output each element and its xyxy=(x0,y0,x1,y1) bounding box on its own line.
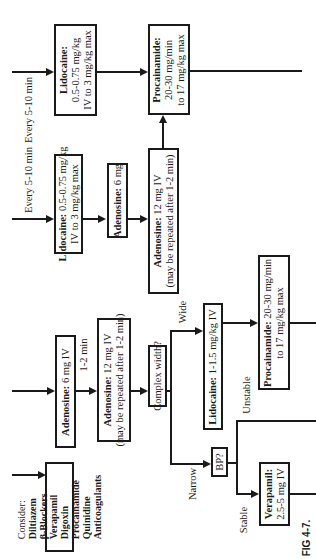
arrowhead xyxy=(46,215,54,223)
drug-max: IV to 3 mg/kg max xyxy=(82,30,94,110)
entry-arrow-lidocaine-top xyxy=(12,71,47,73)
drug-dose: 0.5-0.75 mg/kg xyxy=(57,147,68,211)
connector xyxy=(97,71,141,73)
drug-dose: 20-30 mg/min xyxy=(262,258,273,318)
decision-text: BP? xyxy=(214,453,226,471)
drug-dose: 20-30 mg/min xyxy=(163,34,175,105)
arrowhead xyxy=(47,387,55,395)
adenosine-6mg-iv-text: Adenosine: 6 mg IV xyxy=(60,348,72,436)
arrowhead xyxy=(251,490,259,498)
arrowhead xyxy=(203,460,211,468)
drug-dose: 12 mg IV xyxy=(152,174,163,214)
adenosine-12mg-mid-box: Adenosine: 12 mg IV (may be repeated aft… xyxy=(148,148,179,294)
arrowhead xyxy=(98,215,106,223)
continuation-line xyxy=(190,70,302,72)
consider-title: Consider: xyxy=(16,475,27,539)
consider-item: Procainamide xyxy=(69,480,80,539)
drug-name: Lidocaine: xyxy=(207,376,218,424)
adenosine-6mg-iv-box: Adenosine: 6 mg IV xyxy=(55,335,76,448)
arrowhead xyxy=(195,327,203,335)
lidocaine-top-box: Lidocaine: 0.5-0.75 mg/kg IV to 3 mg/kg … xyxy=(54,24,97,116)
arrowhead xyxy=(140,68,148,76)
branch-line xyxy=(170,330,172,465)
continuation-line xyxy=(290,322,316,324)
arrowhead xyxy=(140,387,148,395)
drug-max: to 17 mg/kg max xyxy=(274,258,286,386)
consider-box: Consider: Diltiazem β-Blockers Verapamil… xyxy=(45,462,74,552)
connector xyxy=(162,122,164,148)
consider-item: Digoxin xyxy=(59,506,70,539)
entry-arrow-lidocaine xyxy=(12,218,47,220)
adenosine-12mg-text: Adenosine: 12 mg IV (may be repeated aft… xyxy=(102,313,126,446)
consider-item: β-Blockers xyxy=(37,493,48,539)
continuation-line xyxy=(290,493,316,495)
arrowhead xyxy=(140,215,148,223)
drug-dose: 6 mg xyxy=(112,163,123,184)
procainamide-top-box: Procainamide: 20-30 mg/min to 17 mg/kg m… xyxy=(148,24,190,115)
procainamide-wide-text: Procainamide: 20-30 mg/min to 17 mg/kg m… xyxy=(262,258,286,386)
adenosine-12mg-mid-text: Adenosine: 12 mg IV (may be repeated aft… xyxy=(152,154,176,287)
verapamil-box: Verapamil: 2.5-5 mg IV xyxy=(259,462,290,526)
lidocaine-mid-text: Lidocaine: 0.5-0.75 mg/kg IV to 3 mg/kg … xyxy=(57,147,81,262)
procainamide-wide-box: Procainamide: 20-30 mg/min to 17 mg/kg m… xyxy=(258,255,290,390)
consider-item: Quinidine xyxy=(80,496,91,539)
wide-branch xyxy=(170,330,196,332)
drug-max: to 17 mg/kg max xyxy=(175,34,187,105)
drug-name: Adenosine: xyxy=(152,217,163,267)
connector xyxy=(83,218,99,220)
arrowhead xyxy=(159,115,167,123)
drug-dose: 1-1.5 mg/kg IV xyxy=(207,309,218,374)
connector xyxy=(76,390,90,392)
complex-width-box: Complex width? xyxy=(148,345,167,407)
lidocaine-mid-box: Lidocaine: 0.5-0.75 mg/kg IV to 3 mg/kg … xyxy=(54,154,83,254)
entry-arrow-adenosine xyxy=(12,390,48,392)
bp-decision-box: BP? xyxy=(211,447,228,477)
lidocaine-top-text: Lidocaine: 0.5-0.75 mg/kg IV to 3 mg/kg … xyxy=(58,30,94,110)
bp-branch-line xyxy=(236,420,238,495)
drug-dose: 2.5-5 mg IV xyxy=(275,468,287,520)
drug-name: Lidocaine: xyxy=(57,214,68,262)
drug-name: Procainamide: xyxy=(151,37,162,103)
drug-name: Adenosine: xyxy=(112,187,123,237)
unstable-branch xyxy=(236,420,316,422)
consider-item: Verapamil xyxy=(48,495,59,540)
verapamil-text: Verapamil: 2.5-5 mg IV xyxy=(263,468,287,520)
drug-name: Adenosine: xyxy=(102,376,113,426)
consider-item: Anticoagulants xyxy=(91,475,102,539)
consider-item: Diltiazem xyxy=(26,498,37,539)
drug-name: Lidocaine: xyxy=(58,46,69,94)
drug-name: Verapamil: xyxy=(263,469,274,519)
drug-dose: 0.5-0.75 mg/kg xyxy=(70,30,82,110)
procainamide-top-text: Procainamide: 20-30 mg/min to 17 mg/kg m… xyxy=(151,34,187,105)
arrowhead xyxy=(250,319,258,327)
stable-branch xyxy=(236,493,252,495)
decision-text: Complex width? xyxy=(152,341,164,411)
arrowhead xyxy=(46,68,54,76)
arrowhead xyxy=(89,387,97,395)
connector xyxy=(223,322,251,324)
adenosine-6mg-mid-text: Adenosine: 6 mg xyxy=(112,163,124,237)
adenosine-12mg-box: Adenosine: 12 mg IV (may be repeated aft… xyxy=(97,318,131,442)
lidocaine-wide-text: Lidocaine: 1-1.5 mg/kg IV xyxy=(207,309,219,425)
narrow-branch xyxy=(170,463,204,465)
adenosine-6mg-mid-box: Adenosine: 6 mg xyxy=(107,163,128,238)
drug-dose: 6 mg IV xyxy=(60,348,71,383)
drug-name: Procainamide: xyxy=(262,321,273,387)
drug-name: Adenosine: xyxy=(60,385,71,435)
drug-note: (may be repeated after 1-2 min) xyxy=(164,154,176,287)
drug-dose: 12 mg IV xyxy=(102,333,113,373)
lidocaine-wide-box: Lidocaine: 1-1.5 mg/kg IV xyxy=(203,303,223,430)
drug-note: (may be repeated after 1-2 min) xyxy=(114,313,126,446)
drug-max: IV to 3 mg/kg max xyxy=(69,147,81,262)
consider-text: Consider: Diltiazem β-Blockers Verapamil… xyxy=(16,475,102,539)
